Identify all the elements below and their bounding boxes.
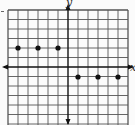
axes [2, 4, 134, 125]
data-point [55, 45, 60, 50]
data-point [115, 74, 120, 79]
stray-tick-mark [1, 11, 4, 12]
data-point [15, 45, 20, 50]
y-axis-label: y [66, 0, 72, 8]
coordinate-plane [0, 0, 135, 125]
data-point [35, 45, 40, 50]
data-point [75, 74, 80, 79]
data-point [95, 74, 100, 79]
x-axis-label: x [130, 62, 135, 73]
x-axis-left-arrow-icon [2, 65, 8, 70]
